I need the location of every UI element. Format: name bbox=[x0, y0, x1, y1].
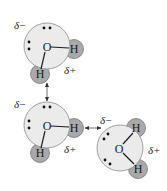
hydrogen-label: H bbox=[36, 67, 45, 81]
partial-negative-label: δ− bbox=[14, 19, 27, 31]
lone-pair-electron bbox=[43, 106, 46, 109]
lone-pair-electron bbox=[43, 27, 46, 30]
hydrogen-label: H bbox=[36, 146, 45, 160]
oxygen-label: O bbox=[43, 119, 52, 133]
partial-positive-label: δ+ bbox=[64, 143, 77, 155]
lone-pair-electron bbox=[103, 138, 106, 141]
hydrogen-label: H bbox=[134, 162, 143, 176]
lone-pair-electron bbox=[28, 127, 31, 130]
lone-pair-electron bbox=[104, 159, 107, 162]
lone-pair-electron bbox=[107, 133, 110, 136]
lone-pair-electron bbox=[49, 106, 52, 109]
lone-pair-electron bbox=[28, 120, 31, 123]
oxygen-label: O bbox=[43, 40, 52, 54]
hydrogen-label: H bbox=[70, 42, 79, 56]
water-molecule-top: O H H δ− δ+ bbox=[14, 19, 84, 84]
lone-pair-electron bbox=[109, 163, 112, 166]
hydrogen-label: H bbox=[70, 121, 79, 135]
lone-pair-electron bbox=[28, 41, 31, 44]
lone-pair-electron bbox=[49, 27, 52, 30]
water-molecule-right: O H H δ− δ+ bbox=[97, 114, 161, 179]
oxygen-label: O bbox=[115, 142, 124, 156]
partial-negative-label: δ− bbox=[100, 114, 113, 126]
lone-pair-electron bbox=[28, 48, 31, 51]
partial-positive-label: δ+ bbox=[148, 144, 161, 156]
partial-positive-label: δ+ bbox=[64, 64, 77, 76]
water-molecule-middle: O H H δ− δ+ bbox=[14, 98, 84, 163]
partial-negative-label: δ− bbox=[14, 98, 27, 110]
hydrogen-label: H bbox=[132, 121, 141, 135]
water-hydrogen-bonding-diagram: O H H δ− δ+ O H H δ− δ+ bbox=[0, 0, 167, 191]
